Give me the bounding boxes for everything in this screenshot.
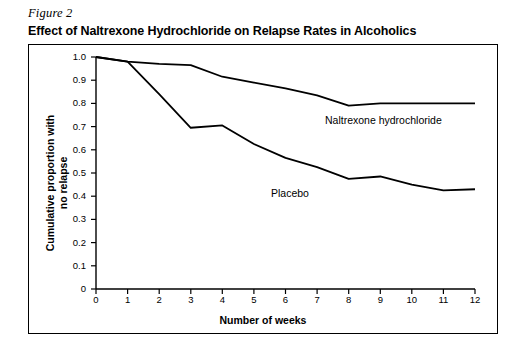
figure-page: Figure 2 Effect of Naltrexone Hydrochlor… — [0, 0, 517, 350]
x-tick-label: 3 — [182, 294, 200, 305]
y-tick-marks — [91, 57, 96, 289]
x-tick-label: 1 — [119, 294, 137, 305]
series-line-naltrexone — [96, 57, 475, 106]
y-axis-label-line2: no relapse — [57, 78, 69, 288]
figure-title: Effect of Naltrexone Hydrochloride on Re… — [28, 24, 416, 38]
x-tick-label: 2 — [150, 294, 168, 305]
x-tick-label: 9 — [371, 294, 389, 305]
x-axis-label: Number of weeks — [28, 314, 498, 326]
y-axis-label-line1: Cumulative proportion with — [44, 78, 56, 288]
figure-label: Figure 2 — [28, 6, 73, 21]
x-tick-label: 4 — [213, 294, 231, 305]
x-tick-label: 11 — [434, 294, 452, 305]
x-tick-label: 10 — [403, 294, 421, 305]
x-tick-label: 6 — [277, 294, 295, 305]
x-tick-label: 5 — [245, 294, 263, 305]
chart-svg — [28, 44, 498, 334]
x-tick-label: 12 — [466, 294, 484, 305]
x-tick-label: 8 — [340, 294, 358, 305]
x-tick-label: 7 — [308, 294, 326, 305]
x-tick-label: 0 — [87, 294, 105, 305]
series-annotation-placebo: Placebo — [271, 187, 309, 199]
chart-area: 0 0.1 0.2 0.3 0.4 0.5 0.6 0.7 0.8 0.9 1.… — [28, 44, 498, 334]
y-tick-label: 1.0 — [60, 51, 86, 62]
series-annotation-naltrexone: Naltrexone hydrochloride — [325, 114, 442, 126]
